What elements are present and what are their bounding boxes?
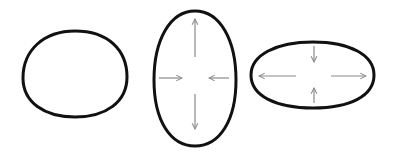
diagram-canvas bbox=[0, 0, 397, 152]
shapes-svg bbox=[0, 0, 397, 152]
vertical-ellipse-shape bbox=[154, 11, 236, 146]
horizontal-ellipse-shape bbox=[251, 42, 374, 108]
circle-shape bbox=[23, 31, 127, 117]
